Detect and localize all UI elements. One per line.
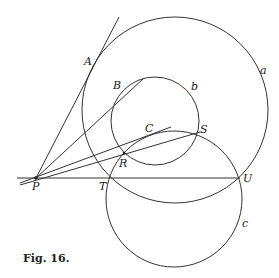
label-U: U — [243, 173, 252, 184]
figure-caption: Fig. 16. — [23, 252, 69, 265]
label-b: b — [191, 81, 198, 92]
label-R: R — [119, 158, 127, 169]
point-R — [123, 152, 126, 155]
label-P: P — [32, 181, 39, 192]
label-S: S — [200, 124, 208, 135]
label-a: a — [260, 65, 267, 76]
label-B: B — [113, 80, 121, 91]
circle-c — [106, 131, 242, 267]
geometry-diagram — [0, 0, 279, 278]
label-A: A — [84, 56, 92, 67]
line-PB — [36, 78, 144, 178]
figure-16: A B C S R P T U a b c Fig. 16. — [0, 0, 279, 278]
label-C: C — [145, 123, 153, 134]
label-c: c — [242, 218, 248, 229]
label-T: T — [99, 181, 106, 192]
line-PA — [36, 17, 119, 178]
line-PC — [20, 127, 171, 183]
